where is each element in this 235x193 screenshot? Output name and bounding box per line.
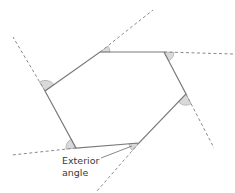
hexagon-figure [0,0,235,193]
exterior-angle-top-right [164,52,174,61]
extension-lines [12,10,233,191]
exterior-angle-markers [40,46,192,150]
exterior-angle-diagram: Exterior angle [0,0,235,193]
extension-top-right [164,52,233,54]
hexagon-outline [45,52,186,148]
exterior-angle-label: Exterior angle [62,155,99,179]
extension-top-left [100,10,153,52]
label-line-2: angle [62,167,99,179]
label-line-1: Exterior [62,155,99,167]
